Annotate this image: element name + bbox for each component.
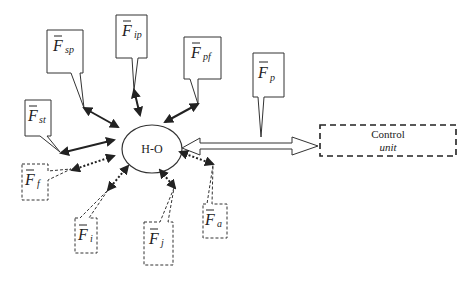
f-pf-sub: pf (202, 51, 212, 62)
f-i-symbol: F (77, 226, 88, 243)
h-o-node: H-O (122, 125, 182, 173)
callout-f-a: F a (180, 152, 227, 238)
callout-f-st: F st (25, 100, 114, 153)
control-unit-subtitle: unit (379, 141, 397, 153)
f-f-symbol: F (24, 171, 35, 188)
f-a-symbol: F (204, 211, 215, 228)
control-unit-title: Control (371, 128, 405, 140)
control-unit-box: Control unit (320, 125, 456, 156)
f-sp-sub: sp (65, 44, 74, 55)
f-ip-symbol: F (121, 22, 132, 39)
h-o-label: H-O (141, 142, 163, 156)
diagram-canvas: H-O Control unit F p F sp F ip F pf (0, 0, 474, 283)
f-pf-symbol: F (190, 44, 201, 61)
f-i-sub: i (90, 233, 93, 244)
callout-f-f: F f (22, 156, 114, 200)
f-st-symbol: F (27, 107, 38, 124)
f-st-sub: st (39, 114, 46, 125)
callout-f-sp: F sp (47, 30, 118, 127)
f-ip-sub: ip (134, 29, 142, 40)
callout-f-ip: F ip (116, 15, 147, 115)
callout-f-i: F i (75, 166, 128, 253)
callout-f-pf: F pf (165, 37, 221, 122)
callout-f-p: F p (253, 53, 284, 137)
f-sp-symbol: F (52, 37, 63, 54)
f-p-sub: p (269, 72, 275, 83)
f-p-symbol: F (257, 64, 268, 81)
f-a-sub: a (217, 218, 222, 229)
callout-f-j: F j (144, 170, 175, 265)
f-j-symbol: F (148, 230, 159, 247)
double-arrow-connection (182, 137, 318, 155)
